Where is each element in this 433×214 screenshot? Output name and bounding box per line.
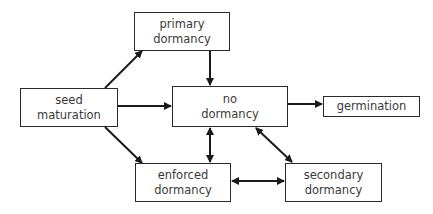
node-label-line: primary	[159, 17, 204, 32]
arrow-seed-to-enforced	[105, 127, 142, 163]
node-label-line: dormancy	[305, 183, 363, 198]
arrow-no-dormancy-secondary	[256, 128, 292, 162]
node-secondary-dormancy: secondary dormancy	[285, 163, 382, 202]
node-no-dormancy: no dormancy	[172, 86, 288, 127]
node-seed-maturation: seed maturation	[20, 88, 118, 127]
node-label-line: maturation	[37, 108, 101, 123]
node-label-line: no	[223, 92, 237, 107]
node-enforced-dormancy: enforced dormancy	[135, 163, 231, 202]
arrow-seed-to-primary	[105, 51, 142, 88]
node-primary-dormancy: primary dormancy	[134, 12, 230, 51]
node-germination: germination	[323, 96, 420, 117]
node-label-line: seed	[55, 93, 82, 108]
node-label-line: dormancy	[201, 107, 259, 122]
node-label-line: germination	[337, 99, 407, 114]
node-label-line: enforced	[158, 168, 209, 183]
node-label-line: dormancy	[153, 32, 211, 47]
node-label-line: secondary	[304, 168, 364, 183]
node-label-line: dormancy	[154, 183, 212, 198]
